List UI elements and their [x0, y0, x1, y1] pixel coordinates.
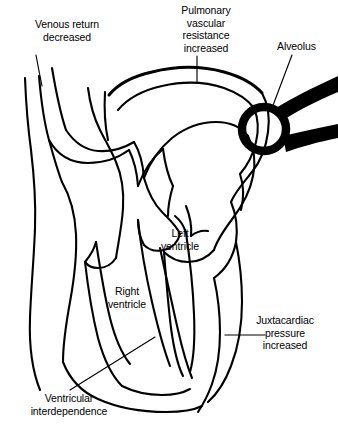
label-left-ventricle: Left ventricle	[152, 227, 208, 252]
leader-alveolus	[272, 55, 292, 108]
label-pulmonary-vascular-resistance: Pulmonary vascular resistance increased	[160, 4, 252, 54]
right-atrium-group	[85, 88, 144, 268]
label-juxtacardiac-pressure: Juxtacardiac pressure increased	[246, 314, 324, 352]
right-ventricle-wall	[63, 242, 202, 412]
label-right-ventricle: Right ventricle	[97, 285, 157, 310]
heart-alveolus-diagram: Venous return decreased Pulmonary vascul…	[0, 0, 338, 432]
left-ventricle-wall	[164, 242, 242, 412]
label-alveolus: Alveolus	[277, 40, 337, 53]
leader-ventricular-interdependence	[70, 337, 155, 390]
label-venous-return: Venous return decreased	[14, 18, 120, 43]
alveolus-ring	[242, 107, 286, 151]
label-ventricular-interdependence: Ventricular interdependence	[14, 392, 124, 417]
diagram-canvas	[0, 0, 338, 432]
